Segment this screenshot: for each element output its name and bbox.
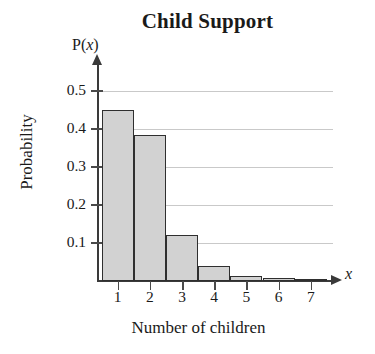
y-axis-tick-label: 0.4 bbox=[67, 119, 86, 137]
bar bbox=[198, 266, 230, 281]
bar bbox=[295, 279, 327, 281]
bar bbox=[230, 276, 262, 281]
x-axis-tick-label: 1 bbox=[106, 288, 130, 306]
x-axis-tick-label: 2 bbox=[138, 288, 162, 306]
x-axis-tick-label: 5 bbox=[234, 288, 258, 306]
x-axis-tick-label: 3 bbox=[170, 288, 194, 306]
x-axis-tick-label: 6 bbox=[267, 288, 291, 306]
bar bbox=[102, 110, 134, 281]
bar bbox=[134, 135, 166, 281]
y-axis-tick-label: 0.1 bbox=[67, 233, 86, 251]
x-axis-tick-label: 7 bbox=[299, 288, 323, 306]
x-axis-arrow-icon bbox=[331, 275, 342, 285]
y-axis-symbol-variable: x bbox=[86, 36, 93, 53]
y-axis-symbol-label: P(x) bbox=[72, 36, 99, 54]
chart-figure: Child Support P(x) Probability Number of… bbox=[0, 0, 375, 354]
chart-title: Child Support bbox=[0, 9, 375, 34]
y-axis-line bbox=[97, 62, 99, 282]
gridline bbox=[100, 91, 333, 92]
gridline bbox=[100, 129, 333, 130]
y-axis-title: Probability bbox=[17, 87, 37, 217]
y-axis-tick-mark bbox=[91, 90, 103, 92]
y-axis-tick-label: 0.2 bbox=[67, 195, 86, 213]
y-axis-arrow-icon bbox=[92, 54, 102, 65]
x-axis-tick-label: 4 bbox=[202, 288, 226, 306]
y-axis-tick-label: 0.3 bbox=[67, 157, 86, 175]
bar bbox=[263, 278, 295, 281]
x-axis-title: Number of children bbox=[0, 318, 375, 338]
x-axis-symbol-label: x bbox=[345, 265, 352, 283]
bar bbox=[166, 235, 198, 281]
y-axis-tick-label: 0.5 bbox=[67, 81, 86, 99]
